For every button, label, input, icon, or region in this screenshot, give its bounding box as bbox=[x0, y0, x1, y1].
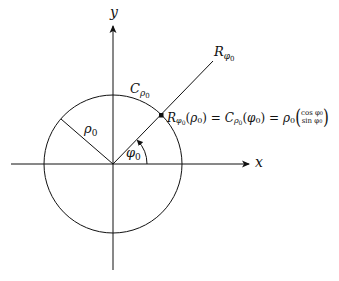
ray-label: Rφ0 bbox=[214, 45, 235, 58]
eq-lhs-subsub: 0 bbox=[182, 120, 186, 126]
eq-vec-paren-close: ) bbox=[323, 107, 329, 128]
angle-label: φ0 bbox=[126, 146, 141, 159]
radius-label-main: ρ bbox=[84, 121, 92, 136]
eq-equals-2: = bbox=[265, 112, 283, 124]
eq-vec-bottom-sub: 0 bbox=[319, 118, 322, 124]
eq-lhs-arg: ρ bbox=[190, 112, 197, 124]
angle-label-sub: 0 bbox=[135, 152, 141, 162]
circle-label: Cρ0 bbox=[130, 82, 150, 95]
y-axis-label: y bbox=[110, 5, 118, 19]
radius-label-sub: 0 bbox=[92, 128, 98, 138]
eq-mid-main: C bbox=[225, 112, 234, 124]
eq-vec-bottom: sin φ0 bbox=[302, 118, 323, 125]
y-label-text: y bbox=[110, 4, 118, 20]
x-axis-label: x bbox=[255, 155, 263, 169]
eq-lhs-main: R bbox=[167, 112, 176, 124]
radius-label: ρ0 bbox=[84, 122, 97, 135]
circle-label-subsub: 0 bbox=[145, 92, 149, 100]
ray-label-subsub: 0 bbox=[230, 55, 234, 63]
eq-vec-bottom-text: sin φ bbox=[302, 117, 319, 125]
eq-rhs-main: ρ bbox=[283, 112, 290, 124]
angle-label-main: φ bbox=[126, 145, 135, 160]
intersection-point bbox=[159, 113, 164, 118]
x-label-text: x bbox=[255, 154, 263, 170]
polar-diagram: y x Rφ0 Cρ0 ρ0 φ0 Rφ0(ρ0) = Cρ0(φ0) = ρ0… bbox=[0, 0, 339, 281]
eq-mid-subsub: 0 bbox=[239, 120, 243, 126]
ray-label-main: R bbox=[214, 44, 224, 59]
eq-equals-1: = bbox=[207, 112, 225, 124]
equation-label: Rφ0(ρ0) = Cρ0(φ0) = ρ0(cos φ0sin φ0) bbox=[167, 110, 329, 125]
eq-mid-arg-sub: 0 bbox=[256, 117, 261, 125]
eq-vec-paren-open: ( bbox=[295, 107, 301, 128]
eq-vector: cos φ0sin φ0 bbox=[301, 110, 323, 125]
eq-lhs-arg-sub: 0 bbox=[197, 117, 202, 125]
diagram-canvas bbox=[0, 0, 339, 281]
eq-mid-arg: φ bbox=[247, 112, 255, 124]
circle-label-main: C bbox=[130, 81, 140, 96]
